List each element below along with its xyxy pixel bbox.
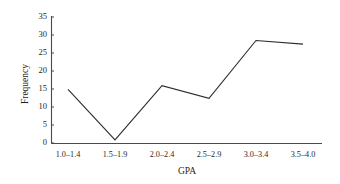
- y-tick-label-15: 15: [39, 83, 48, 93]
- y-axis-title: Frequency: [20, 64, 30, 104]
- frequency-polygon-chart: Frequency 35 30 25 20 15 10 5 0 1.0–1.4 …: [0, 0, 340, 184]
- y-tick-label-10: 10: [39, 101, 48, 111]
- x-tick-label-2: 1.5–1.9: [103, 150, 128, 159]
- y-tick-label-0: 0: [43, 137, 47, 147]
- x-tick-label-1: 1.0–1.4: [56, 150, 81, 159]
- y-tick-label-5: 5: [43, 119, 47, 129]
- y-tick-label-30: 30: [39, 29, 48, 39]
- x-axis-title: GPA: [178, 166, 196, 176]
- x-tick-label-5: 3.0–3.4: [244, 150, 269, 159]
- x-tick-label-3: 2.0–2.4: [150, 150, 175, 159]
- x-tick-label-6: 3.5–4.0: [291, 150, 316, 159]
- y-tick-label-35: 35: [39, 11, 48, 21]
- frequency-series-line: [68, 40, 303, 139]
- chart-canvas: Frequency 35 30 25 20 15 10 5 0 1.0–1.4 …: [0, 0, 340, 184]
- x-tick-label-4: 2.5–2.9: [197, 150, 222, 159]
- y-tick-label-25: 25: [39, 47, 48, 57]
- y-tick-label-20: 20: [39, 65, 48, 75]
